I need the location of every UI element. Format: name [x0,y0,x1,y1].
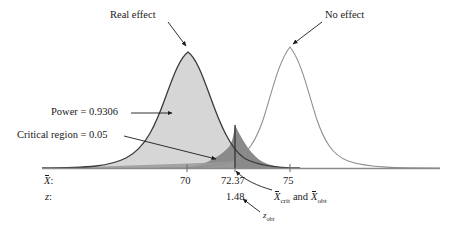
xbar-axis-colon: : [50,175,53,186]
xobt-subscript: obt [318,197,327,205]
real-effect-label: Real effect [110,10,156,21]
xobt-glyph: X [311,191,317,202]
z-axis-colon: : [49,191,52,202]
x-tick-label-72-37: 72.37 [221,176,245,187]
xbar-axis-glyph: X [44,175,50,186]
power-label: Power = 0.9306 [51,107,118,118]
zobt-label: zobt [263,211,274,222]
xbar-axis-label: X: [44,176,53,187]
critical-region-tail-fill [235,125,296,168]
critical-region-label: Critical region = 0.05 [17,130,108,141]
xcrit-overline [275,191,279,192]
zobt-subscript: obt [267,216,275,222]
xobt-overline [312,191,316,192]
z-axis-label: z: [45,192,52,203]
crit-obt-conjunction: and [293,191,308,202]
x-tick-label-70: 70 [180,176,191,187]
zobt-leader [243,199,260,212]
distribution-plot [0,0,450,235]
xbar-overline [45,175,49,176]
xcrit-subscript: crit [280,197,290,205]
no-effect-leader [293,22,322,44]
power-analysis-figure: Real effect No effect Power = 0.9306 Cri… [0,0,450,235]
xcrit-and-xobt-label: XcritandXobt [274,192,327,205]
no-effect-label: No effect [325,10,364,21]
real-effect-leader [168,22,186,46]
z-tick-label-1-48: 1.48 [226,192,244,203]
x-tick-label-75: 75 [283,176,294,187]
xcrit-glyph: X [274,191,280,202]
